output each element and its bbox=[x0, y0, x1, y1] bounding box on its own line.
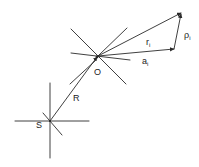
point-s-dot bbox=[49, 120, 51, 122]
vector-rho-i bbox=[174, 14, 181, 49]
label-r-i: ri bbox=[146, 37, 150, 48]
label-r-vector: R bbox=[73, 93, 80, 103]
label-rho-i: ρi bbox=[184, 30, 190, 41]
label-s: S bbox=[36, 120, 42, 130]
vector-r-parallel-segment bbox=[70, 61, 95, 84]
vector-r bbox=[50, 57, 97, 121]
label-a-i: ai bbox=[142, 56, 148, 67]
label-o: O bbox=[94, 67, 101, 77]
o-diagonal-axis-2 bbox=[98, 28, 127, 56]
s-diagonal-axis bbox=[43, 113, 62, 135]
vector-diagram: O S R ri ai ρi bbox=[0, 0, 199, 167]
